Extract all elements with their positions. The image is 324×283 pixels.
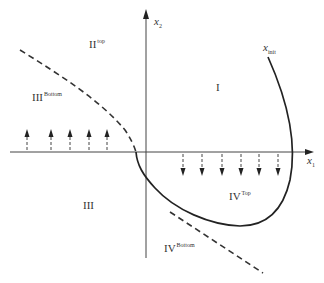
region-III-bottom-text: III xyxy=(32,91,43,103)
trajectory-curve xyxy=(136,57,292,226)
region-I-label: I xyxy=(216,82,220,93)
region-IV-top-text: IV xyxy=(229,190,241,202)
x2-axis-label: x2 xyxy=(154,16,162,27)
x-init-sub: init xyxy=(268,49,276,55)
region-IV-top-label: IVTop xyxy=(229,191,251,202)
region-III-text: III xyxy=(83,199,94,211)
x-init-label: xinit xyxy=(263,42,276,53)
x2-label-sub: 2 xyxy=(159,23,162,29)
region-IV-top-sup: Top xyxy=(242,190,251,196)
region-I-text: I xyxy=(216,81,220,93)
region-III-bottom-label: IIIBottom xyxy=(32,92,62,103)
region-II-text: II xyxy=(89,38,96,50)
region-III-bottom-sup: Bottom xyxy=(44,91,62,97)
x1-label-sub: 1 xyxy=(312,162,315,168)
x1-axis xyxy=(10,149,314,155)
down-arrows xyxy=(181,154,281,176)
region-IV-bottom-label: IVBottom xyxy=(164,243,195,254)
region-III-label: III xyxy=(83,200,94,211)
region-II-top-label: IItop xyxy=(89,39,105,50)
x1-axis-label: x1 xyxy=(307,155,315,166)
up-arrows xyxy=(25,129,110,150)
region-II-sup: top xyxy=(97,38,105,44)
x2-axis xyxy=(143,9,149,258)
region-IV-bottom-sup: Bottom xyxy=(177,242,195,248)
region-IV-bottom-text: IV xyxy=(164,242,176,254)
